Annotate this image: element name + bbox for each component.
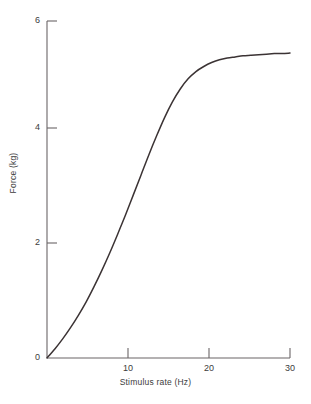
y-tick-label-0: 0 bbox=[24, 353, 40, 362]
y-tick-label-4: 4 bbox=[24, 123, 40, 132]
x-axis-ticks bbox=[128, 348, 290, 358]
y-tick-label-6: 6 bbox=[24, 16, 40, 25]
y-tick-label-2: 2 bbox=[24, 238, 40, 247]
x-tick-label-10: 10 bbox=[116, 364, 140, 373]
y-axis-ticks bbox=[47, 21, 57, 243]
x-axis-title: Stimulus rate (Hz) bbox=[0, 377, 311, 387]
x-tick-label-20: 20 bbox=[197, 364, 221, 373]
chart-plot-area bbox=[0, 0, 311, 404]
x-tick-label-30: 30 bbox=[278, 364, 302, 373]
force-frequency-chart: 6 4 2 0 10 20 30 Stimulus rate (Hz) Forc… bbox=[0, 0, 311, 404]
y-axis-title: Force (kg) bbox=[8, 133, 18, 213]
force-frequency-curve bbox=[47, 53, 290, 358]
